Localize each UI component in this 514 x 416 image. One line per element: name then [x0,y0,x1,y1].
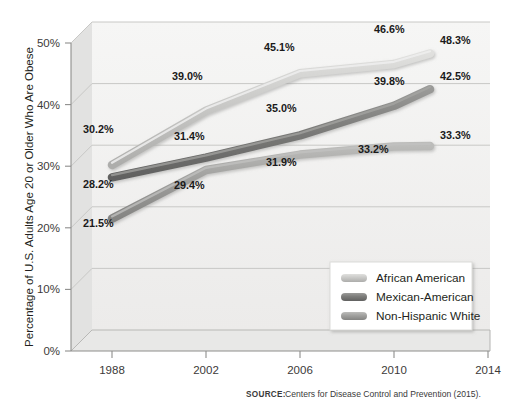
data-label: 46.6% [374,23,405,35]
y-tick-label: 20% [37,222,60,234]
data-label: 33.2% [358,143,389,155]
x-tick-label: 2010 [381,364,407,376]
source-text: Centers for Disease Control and Preventi… [285,389,481,399]
data-label: 28.2% [83,178,114,190]
data-label: 35.0% [266,102,297,114]
data-label: 42.5% [440,70,471,82]
x-tick-label: 2002 [193,364,219,376]
line-chart-svg: 50% 40% 30% 20% 10% 0% Percentage of U.S… [0,0,514,416]
legend-swatch-icon [341,274,367,282]
legend-swatch-icon [341,293,367,301]
y-axis-title: Percentage of U.S. Adults Age 20 or Olde… [23,47,35,347]
legend-label: African American [376,271,465,285]
data-label: 39.8% [374,75,405,87]
data-label: 33.3% [440,129,471,141]
data-label: 48.3% [440,34,471,46]
data-label: 45.1% [264,41,295,53]
x-tick-label: 2006 [287,364,313,376]
y-tick-label: 40% [37,99,60,111]
legend-label: Non-Hispanic White [376,309,481,323]
data-label: 39.0% [172,70,203,82]
legend-label: Mexican-American [376,290,474,304]
data-label: 21.5% [83,217,114,229]
plot-floor [71,330,490,351]
y-tick-label: 10% [37,283,60,295]
source-label: SOURCE: [246,390,286,399]
x-tick-label: 2014 [475,364,501,376]
chart-legend[interactable]: African American Mexican-American Non-Hi… [330,262,481,330]
legend-swatch-icon [341,312,367,320]
chart-figure: 50% 40% 30% 20% 10% 0% Percentage of U.S… [0,0,514,416]
source-note: SOURCE: Centers for Disease Control and … [246,389,481,399]
y-tick-label: 50% [37,37,60,49]
y-tick-label: 30% [37,160,60,172]
x-tick-label: 1988 [99,364,125,376]
data-label: 31.9% [266,156,297,168]
data-label: 31.4% [174,130,205,142]
data-label: 30.2% [83,123,114,135]
data-label: 29.4% [174,179,205,191]
y-tick-label: 0% [43,345,60,357]
